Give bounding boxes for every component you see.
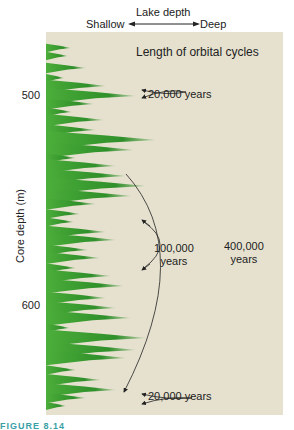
annotation-400000: 400,000 years <box>224 240 264 266</box>
panel-title: Length of orbital cycles <box>136 46 259 59</box>
annotation-20000-top: 20,000 years <box>148 88 212 101</box>
y-tick-600: 600 <box>10 299 40 311</box>
annotation-400000-value: 400,000 <box>224 240 264 253</box>
annotation-100000-value: 100,000 <box>154 242 194 255</box>
chart-panel: Length of orbital cycles 20,000 years 10… <box>46 32 283 415</box>
annotation-20000-bottom: 20,000 years <box>148 390 212 403</box>
annotation-100000: 100,000 years <box>154 242 194 268</box>
figure-caption: FIGURE 8.14 <box>0 421 65 430</box>
y-axis-label: Core depth (m) <box>14 176 26 276</box>
annotation-100000-unit: years <box>154 255 194 268</box>
y-tick-500: 500 <box>10 89 40 101</box>
annotation-400000-unit: years <box>224 253 264 266</box>
